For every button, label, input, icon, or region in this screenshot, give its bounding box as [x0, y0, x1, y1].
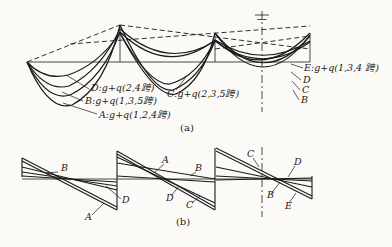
case-e-label: E:g+q(1,3,4 跨)	[303, 62, 379, 73]
shear-label-s3-b: B	[266, 189, 274, 200]
shear-label-s2-c: C	[186, 199, 194, 210]
shear-label-s2-a: A	[161, 154, 169, 165]
case-b-label: B:g+q(1,3,5跨)	[84, 95, 157, 106]
caption-b: (b)	[176, 216, 190, 227]
curve-d-span1	[27, 33, 120, 76]
leader-tag-b	[293, 90, 299, 100]
leader-tag-d	[291, 72, 301, 80]
leader-case-d	[66, 75, 89, 89]
leader-s1-d	[106, 186, 121, 199]
shear-label-s1-b: B	[60, 162, 68, 173]
case-d-label: D:g+q(2,4跨)	[90, 82, 155, 93]
envelope-figure-svg: D:g+q(2,4跨) B:g+q(1,3,5跨) A:g+q(1,2,4跨) …	[0, 0, 392, 247]
shear-envelope-diagram: B D A A B D C C D B E (b)	[22, 147, 312, 227]
shear-label-s3-d: D	[293, 156, 302, 167]
caption-a: (a)	[180, 122, 194, 133]
leader-case-e	[291, 64, 303, 68]
shear-label-s2-d: D	[165, 192, 174, 203]
curve-tag-b: B	[300, 94, 308, 105]
leader-s1-b	[46, 172, 58, 173]
shear-label-s3-e: E	[284, 200, 292, 211]
leader-s1-a	[92, 203, 104, 215]
shear-s1-steep1	[22, 158, 117, 207]
shear-label-s1-d: D	[121, 194, 130, 205]
shear-label-s3-c: C	[247, 148, 255, 159]
curve-e-span1	[27, 29, 120, 87]
figure: D:g+q(2,4跨) B:g+q(1,3,5跨) A:g+q(1,2,4跨) …	[0, 0, 392, 247]
leader-tag-c	[292, 81, 300, 90]
shear-s1-steep2	[22, 161, 117, 210]
moment-envelope-diagram: D:g+q(2,4跨) B:g+q(1,3,5跨) A:g+q(1,2,4跨) …	[27, 11, 379, 133]
leader-s3-d	[288, 166, 295, 177]
leader-s3-c	[253, 158, 259, 167]
shear-label-s1-a: A	[84, 211, 92, 222]
shear-label-s2-b: B	[194, 162, 202, 173]
case-c-label: C:g+q(2,3,5跨)	[167, 88, 239, 99]
case-a-label: A:g+q(1,2,4跨)	[98, 109, 171, 120]
